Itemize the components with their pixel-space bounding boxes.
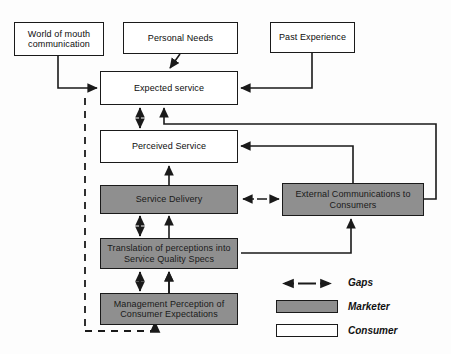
wire-external-to-perceived: [241, 146, 353, 183]
legend-label-consumer: Consumer: [348, 325, 397, 336]
node-label: Translation of perceptions into Service …: [101, 243, 237, 264]
node-label: External Communications to Consumers: [283, 189, 423, 210]
node-label: Perceived Service: [130, 141, 208, 151]
legend-row-gaps: Gaps: [276, 272, 436, 292]
node-translation-of-perceptions[interactable]: Translation of perceptions into Service …: [100, 238, 238, 269]
wire-needs-to-expected: [170, 54, 180, 68]
node-label: Expected service: [132, 83, 206, 93]
wire-translation-to-external: [241, 219, 351, 253]
legend-label-marketer: Marketer: [348, 301, 390, 312]
node-label: World of mouth communication: [15, 29, 103, 50]
legend-label-gaps: Gaps: [348, 277, 373, 288]
legend-row-marketer: Marketer: [276, 296, 436, 316]
node-past-experience[interactable]: Past Experience: [270, 22, 355, 53]
node-label: Management Perception of Consumer Expect…: [101, 299, 237, 320]
node-label: Personal Needs: [146, 33, 215, 43]
node-word-of-mouth[interactable]: World of mouth communication: [14, 22, 104, 56]
legend-row-consumer: Consumer: [276, 320, 436, 340]
consumer-swatch-icon: [276, 324, 338, 337]
legend: Gaps Marketer Consumer: [276, 272, 436, 344]
wire-wom-to-expected: [58, 55, 97, 88]
diagram-canvas: World of mouth communication Personal Ne…: [0, 0, 451, 354]
node-service-delivery[interactable]: Service Delivery: [100, 185, 238, 214]
wire-past-to-expected: [241, 53, 312, 88]
node-label: Service Delivery: [134, 194, 205, 204]
node-expected-service[interactable]: Expected service: [100, 71, 238, 105]
gaps-arrow-icon: [276, 276, 338, 289]
node-personal-needs[interactable]: Personal Needs: [123, 22, 238, 54]
node-label: Past Experience: [277, 32, 348, 42]
node-external-communications[interactable]: External Communications to Consumers: [282, 183, 424, 216]
node-perceived-service[interactable]: Perceived Service: [100, 130, 238, 163]
marketer-swatch-icon: [276, 300, 338, 313]
node-management-perception[interactable]: Management Perception of Consumer Expect…: [100, 293, 238, 325]
